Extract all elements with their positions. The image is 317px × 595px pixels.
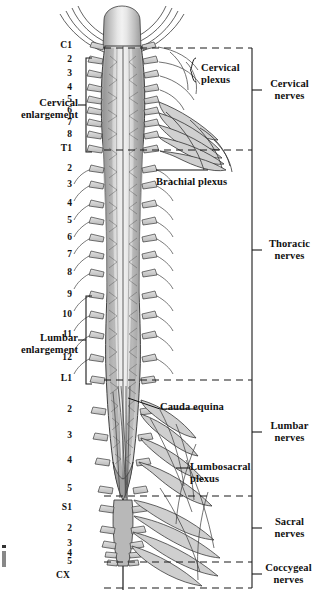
lumbosacral-plexus-line1: Lumbosacral (190, 461, 251, 473)
cervical-enlargement-label: Cervical enlargement (0, 97, 78, 122)
cervical-enlargement-line2: enlargement (0, 109, 78, 121)
segment-label: 9 (50, 290, 72, 300)
cervical-plexus-nerves (158, 47, 200, 110)
segment-label: 3 (50, 431, 72, 441)
segment-label: 3 (50, 69, 72, 79)
thoracic-nerves-line1: Thoracic (262, 238, 317, 250)
segment-label: C1 (50, 41, 72, 51)
sacral-nerves-label: Sacral nerves (262, 516, 317, 541)
segment-label: 5 (50, 484, 72, 494)
lumbar-nerves-line1: Lumbar (262, 420, 317, 432)
segment-label: S1 (50, 503, 72, 513)
page-edge-mark-bar (2, 551, 6, 567)
segment-label: 2 (50, 55, 72, 65)
segment-label: 7 (50, 250, 72, 260)
segment-label: 2 (50, 164, 72, 174)
brachial-plexus-label: Brachial plexus (156, 176, 227, 188)
nerve-group-axis (252, 48, 262, 588)
segment-label: 5 (50, 557, 72, 567)
cervical-plexus-line2: plexus (201, 74, 240, 86)
lumbar-nerves-line2: nerves (262, 432, 317, 444)
cauda-equina-label: Cauda equina (160, 401, 224, 413)
segment-label: 5 (50, 216, 72, 226)
segment-label: 2 (50, 524, 72, 534)
thoracic-nerves-label: Thoracic nerves (262, 238, 317, 263)
coccygeal-nerves-line1: Coccygeal (260, 562, 317, 574)
segment-label: 6 (50, 233, 72, 243)
sacral-nerves-line1: Sacral (262, 516, 317, 528)
segment-label: 2 (50, 405, 72, 415)
medulla (103, 6, 141, 48)
cervical-nerves-line1: Cervical (262, 78, 317, 90)
page-edge-mark-top (2, 545, 6, 548)
thoracic-nerves-line2: nerves (262, 250, 317, 262)
lumbosacral-plexus-nerves (139, 400, 212, 506)
segment-label: 3 (50, 180, 72, 190)
brachial-plexus-nerves (159, 102, 226, 171)
lumbar-enlargement-line2: enlargement (0, 344, 78, 356)
segment-label: CX (48, 571, 70, 581)
segment-label: L1 (50, 374, 72, 384)
segment-label: 8 (50, 268, 72, 278)
lumbosacral-plexus-line2: plexus (190, 473, 251, 485)
segment-label: 8 (50, 130, 72, 140)
sacral-plexus-fan (132, 500, 220, 586)
coccygeal-nerves-line2: nerves (260, 574, 317, 586)
spinal-cord-figure: C1 2 3 4 5 6 7 8 T1 2 3 4 5 6 7 8 9 10 1… (0, 0, 317, 595)
cervical-nerves-label: Cervical nerves (262, 78, 317, 103)
segment-label: 4 (50, 199, 72, 209)
cervical-nerves-line2: nerves (262, 90, 317, 102)
segment-label: 4 (50, 456, 72, 466)
segment-label: T1 (50, 144, 72, 154)
cervical-enlargement-line1: Cervical (0, 97, 78, 109)
cervical-plexus-line1: Cervical (201, 62, 240, 74)
lumbar-enlargement-label: Lumbar enlargement (0, 332, 78, 357)
coccygeal-nerves-label: Coccygeal nerves (260, 562, 317, 587)
cervical-plexus-label: Cervical plexus (201, 62, 240, 87)
lumbar-enlargement-line1: Lumbar (0, 332, 78, 344)
lumbosacral-plexus-label: Lumbosacral plexus (190, 461, 251, 486)
lumbar-nerves-label: Lumbar nerves (262, 420, 317, 445)
segment-label: 10 (50, 310, 72, 320)
segment-label: 4 (50, 83, 72, 93)
sacral-nerves-line2: nerves (262, 528, 317, 540)
